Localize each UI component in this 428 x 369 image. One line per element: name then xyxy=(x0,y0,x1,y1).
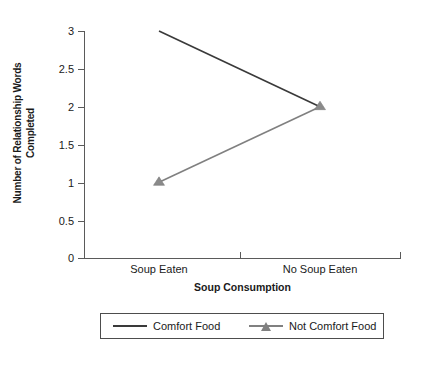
series-line-not-comfort-food xyxy=(159,107,320,183)
legend-label-not-comfort-food: Not Comfort Food xyxy=(289,320,376,332)
legend-label-comfort-food: Comfort Food xyxy=(153,320,220,332)
x-category-label-no-soup-eaten: No Soup Eaten xyxy=(260,263,380,275)
legend-line-icon xyxy=(113,325,147,327)
legend-item-comfort-food: Comfort Food xyxy=(113,314,220,338)
triangle-marker-icon xyxy=(261,322,271,331)
x-category-label-soup-eaten: Soup Eaten xyxy=(99,263,219,275)
legend: Comfort Food Not Comfort Food xyxy=(100,313,384,339)
series-line-comfort-food xyxy=(159,31,320,107)
legend-swatch-comfort-food xyxy=(113,320,147,332)
legend-swatch-not-comfort-food xyxy=(249,320,283,332)
x-axis-title: Soup Consumption xyxy=(84,281,401,293)
chart-figure: Number of Relationship Words Completed 3… xyxy=(0,0,428,369)
plot-area xyxy=(0,0,428,300)
legend-item-not-comfort-food: Not Comfort Food xyxy=(249,314,376,338)
